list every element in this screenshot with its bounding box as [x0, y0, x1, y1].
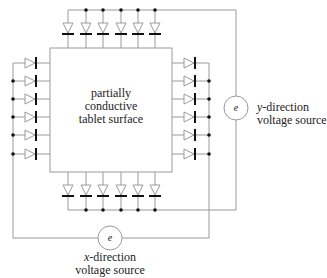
x-source-label-line-2: voltage source [70, 264, 150, 277]
right-diodes [172, 57, 211, 160]
tablet-label: partially conductive tablet surface [62, 87, 160, 126]
y-source-label: y-direction voltage source [257, 101, 327, 127]
top-diodes [62, 8, 161, 48]
y-source-label-rest: -direction [262, 100, 309, 114]
left-diodes [11, 57, 50, 160]
y-source-label-line-2: voltage source [257, 114, 327, 127]
bottom-diodes [62, 172, 161, 212]
x-source-label: x-direction voltage source [70, 251, 150, 277]
y-source-symbol: e [230, 101, 242, 114]
x-source-label-rest: -direction [89, 250, 136, 264]
x-source-symbol: e [104, 231, 116, 244]
tablet-label-line-3: tablet surface [62, 113, 160, 126]
